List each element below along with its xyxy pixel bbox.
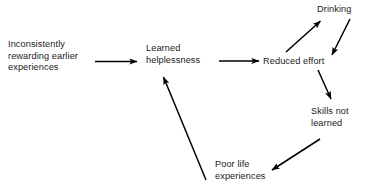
edge-poorlife-to-learned [164,77,207,180]
node-skills-not-learned: Skills not learned [311,106,349,129]
flowchart-diagram: Inconsistently rewarding earlier experie… [0,0,367,193]
arrow-layer [0,0,367,193]
edge-reduced-to-drinking [286,21,321,52]
node-reduced-effort: Reduced effort [263,56,324,68]
node-inconsistently-rewarding-earlier-experiences: Inconsistently rewarding earlier experie… [8,39,78,74]
edge-reduced-to-skills [318,70,331,99]
node-poor-life-experiences: Poor life experiences [215,159,266,182]
node-learned-helplessness: Learned helplessness [146,43,200,66]
edge-skills-to-poorlife [272,139,320,170]
node-drinking: Drinking [317,4,351,16]
edge-drinking-to-skills [332,19,350,55]
